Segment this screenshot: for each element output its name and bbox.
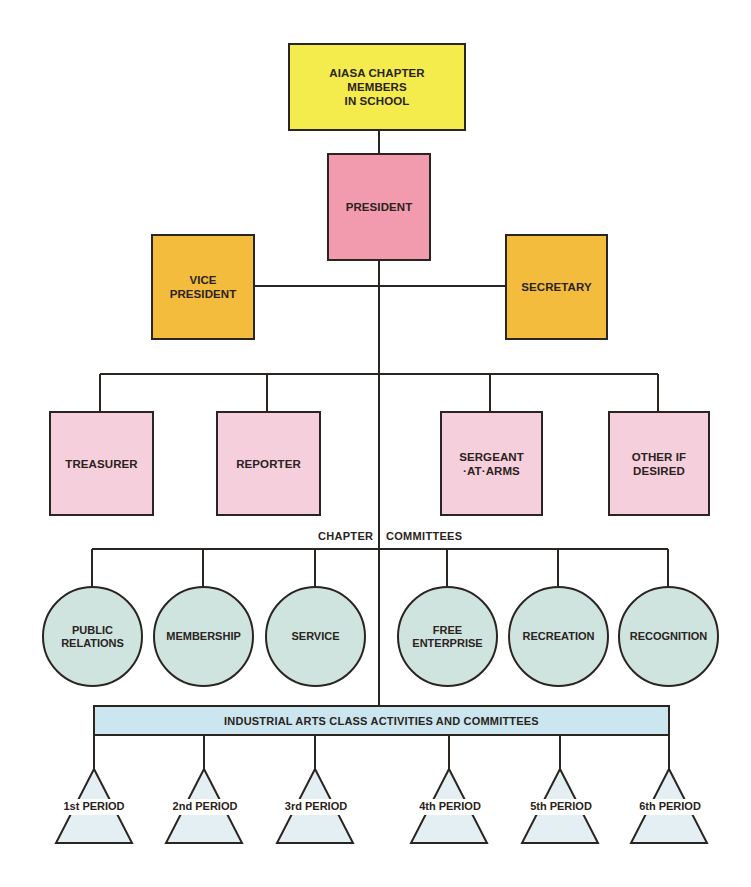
- chapter-members-box: AIASA CHAPTER MEMBERS IN SCHOOL: [288, 43, 466, 131]
- class-activities-bar: INDUSTRIAL ARTS CLASS ACTIVITIES AND COM…: [93, 705, 670, 736]
- committee-service: SERVICE: [265, 586, 366, 687]
- secretary-box: SECRETARY: [505, 234, 608, 340]
- period-2-label: 2nd PERIOD: [160, 800, 250, 812]
- secretary-label: SECRETARY: [521, 280, 592, 294]
- president-label: PRESIDENT: [346, 200, 413, 214]
- committee-public-relations: PUBLIC RELATIONS: [42, 586, 143, 687]
- period-3-label: 3rd PERIOD: [271, 800, 361, 812]
- reporter-label: REPORTER: [236, 457, 301, 471]
- sergeant-at-arms-label: SERGEANT ·AT·ARMS: [459, 450, 524, 478]
- other-if-desired-box: OTHER IF DESIRED: [608, 411, 710, 516]
- committee-membership: MEMBERSHIP: [153, 586, 254, 687]
- committee-recognition: RECOGNITION: [618, 586, 719, 687]
- treasurer-label: TREASURER: [65, 457, 137, 471]
- committee-free-enterprise: FREE ENTERPRISE: [397, 586, 498, 687]
- period-5-label: 5th PERIOD: [516, 800, 606, 812]
- treasurer-box: TREASURER: [49, 411, 154, 516]
- chapter-heading-left: CHAPTER: [318, 530, 373, 542]
- period-6-label: 6th PERIOD: [625, 800, 715, 812]
- vice-president-box: VICE PRESIDENT: [151, 234, 255, 340]
- president-box: PRESIDENT: [327, 153, 431, 261]
- period-4-label: 4th PERIOD: [405, 800, 495, 812]
- class-activities-label: INDUSTRIAL ARTS CLASS ACTIVITIES AND COM…: [224, 715, 539, 727]
- period-1-label: 1st PERIOD: [49, 800, 139, 812]
- sergeant-at-arms-box: SERGEANT ·AT·ARMS: [440, 411, 543, 516]
- reporter-box: REPORTER: [216, 411, 321, 516]
- chapter-heading-right: COMMITTEES: [386, 530, 462, 542]
- committee-recreation: RECREATION: [508, 586, 609, 687]
- vice-president-label: VICE PRESIDENT: [170, 273, 237, 301]
- chapter-members-label: AIASA CHAPTER MEMBERS IN SCHOOL: [329, 66, 424, 108]
- org-chart: AIASA CHAPTER MEMBERS IN SCHOOL PRESIDEN…: [0, 0, 751, 887]
- other-if-desired-label: OTHER IF DESIRED: [632, 450, 686, 478]
